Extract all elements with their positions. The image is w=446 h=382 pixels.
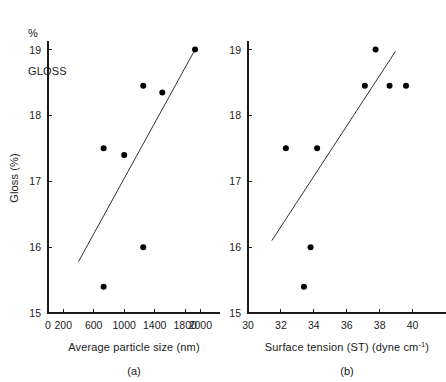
data-point [140,83,146,89]
x-axis-title-tail: ) [425,341,429,353]
x-tick-label: 200 [54,319,72,331]
x-tick-label: 40 [407,319,419,331]
data-point [362,83,368,89]
x-tick-label: 0 [45,319,51,331]
trend-line [272,52,395,241]
panel-b-canvas: 1516171819303234363840Gloss (%)Surface t… [221,0,446,382]
figure-container: % GLOSS 15161718190200600100014001800200… [0,0,446,382]
y-tick-label: 19 [29,44,41,56]
x-tick-label: 38 [374,319,386,331]
y-tick-label: 17 [229,175,241,187]
x-tick-label: 30 [242,319,254,331]
y-tick-label: 17 [29,175,41,187]
x-tick-label: 600 [85,319,103,331]
panel-caption: (a) [127,365,140,377]
axis-lines [248,41,446,313]
x-axis-title: Surface tension (ST) (dyne cm-1) [265,340,429,353]
x-tick-label: 2000 [189,319,213,331]
data-point [101,284,107,290]
x-axis-title-main: Surface tension (ST) (dyne cm [265,341,419,353]
panel-a: 151617181902006001000140018002000Gloss (… [0,0,225,382]
x-tick-label: 32 [275,319,287,331]
data-point [283,145,289,151]
axis-lines [48,41,220,313]
y-tick-label: 18 [29,109,41,121]
y-tick-label: 15 [29,307,41,319]
y-tick-label: 19 [229,44,241,56]
x-axis-title: Average particle size (nm) [68,341,199,353]
data-point [121,152,127,158]
panel-caption: (b) [340,365,353,377]
x-tick-label: 1400 [143,319,167,331]
panel-a-canvas: 151617181902006001000140018002000Gloss (… [0,0,225,382]
scatter-plot-a: 151617181902006001000140018002000Gloss (… [0,0,225,382]
data-point [192,47,198,53]
data-point [159,89,165,95]
x-axis-title-superscript: -1 [418,340,425,349]
data-point [101,145,107,151]
trend-line [78,50,195,262]
y-axis-title: Gloss (%) [8,153,20,203]
y-tick-label: 16 [29,241,41,253]
x-tick-label: 1000 [113,319,137,331]
y-tick-label: 18 [229,109,241,121]
x-tick-label: 36 [341,319,353,331]
x-axis-title-main: Average particle size (nm) [68,341,199,353]
data-point [314,145,320,151]
panel-b: 1516171819303234363840Gloss (%)Surface t… [221,0,446,382]
data-point [140,244,146,250]
y-tick-label: 15 [229,307,241,319]
y-tick-label: 16 [229,241,241,253]
data-point [308,244,314,250]
scatter-plot-b: 1516171819303234363840Gloss (%)Surface t… [221,0,446,382]
x-tick-label: 34 [308,319,320,331]
data-point [403,83,409,89]
data-point [387,83,393,89]
data-point [373,47,379,53]
data-point [301,284,307,290]
